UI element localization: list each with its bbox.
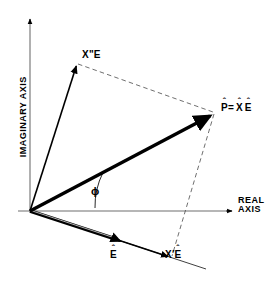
e-hat-mark-2: ˆ — [247, 97, 250, 106]
p-hat-mark: ˆ — [223, 97, 226, 106]
p-hat-equals-x-hat-e-hat-label: ˆP=ˆXˆE — [221, 103, 252, 114]
real-axis-label-line2: AXIS — [238, 205, 265, 214]
x-hat-mark: ˆ — [238, 97, 241, 106]
dashed-right-construction-line — [172, 114, 214, 256]
construction-lines — [78, 64, 214, 256]
x-double-prime-E-label: X"E — [82, 50, 101, 61]
p-equals-sign: = — [228, 102, 234, 113]
x-double-prime-E-tail: E — [94, 49, 101, 60]
e-hat-label: ˆE — [110, 250, 117, 261]
real-axis-label: REALAXIS — [238, 196, 265, 215]
x-double-prime-E-base: X — [82, 49, 89, 60]
e-hat-mark-3: ˆ — [176, 244, 179, 253]
x-prime-E-hat-label: X′ˆE — [165, 250, 181, 261]
p-hat-vector — [30, 116, 210, 211]
dashed-top-construction-line — [78, 64, 213, 112]
x-prime-base: X — [165, 249, 172, 260]
imaginary-axis-label: IMAGINARY AXIS — [19, 72, 28, 162]
phi-angle-label: ϕ — [91, 186, 99, 198]
phasor-diagram-svg — [0, 0, 277, 288]
e-hat-mark-1: ˆ — [112, 244, 115, 253]
e-hat-vector — [30, 210, 120, 241]
figure-canvas: IMAGINARY AXIS REALAXIS X"E ˆP=ˆXˆE ˆE X… — [0, 0, 277, 288]
